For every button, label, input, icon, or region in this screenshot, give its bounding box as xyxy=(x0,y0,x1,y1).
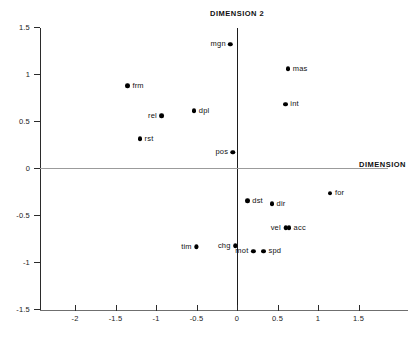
y-tick-label: 1.5 xyxy=(2,23,30,32)
x-tick-mark xyxy=(116,305,117,311)
point-label: mgn xyxy=(211,41,226,49)
vertical-zero-axis xyxy=(237,28,238,311)
x-tick-label: 0.5 xyxy=(263,314,293,323)
y-tick-mark xyxy=(34,121,40,122)
y-tick-mark xyxy=(34,74,40,75)
x-tick-label: -2 xyxy=(60,314,90,323)
point-label: dpl xyxy=(199,107,210,115)
point-marker xyxy=(138,137,143,142)
point-marker xyxy=(245,199,250,204)
point-marker xyxy=(283,102,288,107)
data-point: pos xyxy=(215,148,235,156)
data-point: dpl xyxy=(192,107,210,115)
point-label: rst xyxy=(145,135,154,143)
point-marker xyxy=(159,113,164,118)
x-tick-label: -1.5 xyxy=(101,314,131,323)
y-tick-label: -0.5 xyxy=(2,210,30,219)
point-label: acc xyxy=(294,224,306,232)
x-tick-mark xyxy=(237,305,238,311)
point-label: mot xyxy=(235,248,248,256)
y-axis-line xyxy=(40,28,41,311)
y-tick-mark xyxy=(34,215,40,216)
x-tick-label: 1.5 xyxy=(344,314,374,323)
point-marker xyxy=(231,150,236,155)
x-tick-mark xyxy=(318,305,319,311)
y-tick-mark xyxy=(34,262,40,263)
data-point: dst xyxy=(245,197,263,205)
data-point: acc xyxy=(287,224,306,232)
y-tick-label: -1 xyxy=(2,257,30,266)
data-point: spd xyxy=(261,248,281,256)
data-point: dir xyxy=(270,200,286,208)
data-point: mgn xyxy=(211,41,233,49)
data-point: mas xyxy=(286,65,308,73)
data-point: frm xyxy=(125,82,143,90)
y-tick-mark xyxy=(34,309,40,310)
point-marker xyxy=(270,201,275,206)
data-point: vel xyxy=(271,224,288,232)
point-label: dst xyxy=(252,197,263,205)
point-marker xyxy=(228,42,233,47)
data-point: tim xyxy=(181,243,199,251)
point-label: pos xyxy=(215,148,228,156)
plot-area: DIMENSION 2 DIMENSION 1.510.50-0.5-1-1.5… xyxy=(0,0,410,349)
x-tick-mark xyxy=(197,305,198,311)
scatter-plot-figure: DIMENSION 2 DIMENSION 1.510.50-0.5-1-1.5… xyxy=(0,0,410,349)
x-tick-mark xyxy=(75,305,76,311)
point-marker xyxy=(328,191,333,196)
point-marker xyxy=(286,66,291,71)
x-tick-label: -1 xyxy=(141,314,171,323)
y-tick-label: 1 xyxy=(2,70,30,79)
data-point: rst xyxy=(138,135,154,143)
point-marker xyxy=(125,83,130,88)
point-marker xyxy=(194,244,199,249)
y-tick-label: 0.5 xyxy=(2,117,30,126)
y-tick-mark xyxy=(34,168,40,169)
y-tick-mark xyxy=(34,27,40,28)
x-axis-title: DIMENSION xyxy=(359,160,406,169)
data-point: rel xyxy=(148,112,164,120)
data-point: mot xyxy=(235,248,255,256)
y-tick-label: -1.5 xyxy=(2,304,30,313)
horizontal-zero-axis xyxy=(40,168,388,169)
x-tick-label: -0.5 xyxy=(182,314,212,323)
x-tick-label: 1 xyxy=(303,314,333,323)
point-label: frm xyxy=(132,82,143,90)
y-axis-title: DIMENSION 2 xyxy=(210,9,264,18)
x-tick-mark xyxy=(278,305,279,311)
point-marker xyxy=(287,226,292,231)
point-label: tim xyxy=(181,243,192,251)
point-label: spd xyxy=(268,248,281,256)
point-label: mas xyxy=(293,65,308,73)
x-tick-mark xyxy=(156,305,157,311)
point-marker xyxy=(251,249,256,254)
point-label: vel xyxy=(271,224,281,232)
x-tick-mark xyxy=(359,305,360,311)
x-tick-label: 0 xyxy=(222,314,252,323)
point-label: rel xyxy=(148,112,157,120)
y-tick-label: 0 xyxy=(2,164,30,173)
point-label: dir xyxy=(277,200,286,208)
data-point: for xyxy=(328,190,344,198)
data-point: int xyxy=(283,101,299,109)
point-label: int xyxy=(290,101,299,109)
point-label: for xyxy=(335,190,344,198)
point-marker xyxy=(192,109,197,114)
point-marker xyxy=(261,249,266,254)
x-axis-line xyxy=(40,310,408,311)
point-label: chg xyxy=(218,242,231,250)
